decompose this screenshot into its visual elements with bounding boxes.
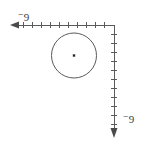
vertical-axis-label: −9: [123, 111, 134, 125]
math-diagram: −9 −9: [0, 0, 141, 142]
horizontal-axis-label-number: 9: [24, 11, 30, 23]
down-arrowhead-icon: [111, 128, 118, 138]
circle-center-dot: [73, 54, 75, 56]
horizontal-axis-label: −9: [18, 9, 29, 23]
vertical-axis-label-number: 9: [129, 113, 135, 125]
